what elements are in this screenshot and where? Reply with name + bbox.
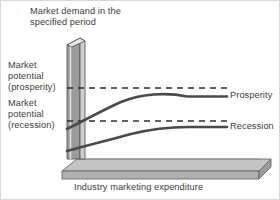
prosperity-curve	[67, 94, 227, 129]
chart-title-line-2: specified period	[30, 17, 96, 27]
y-axis-label-recession-line-1: Market	[8, 98, 37, 108]
base-slab-top-face	[62, 159, 271, 171]
value-axis-slab-side-face	[80, 38, 85, 159]
y-axis-label-recession-line-2: potential	[8, 109, 44, 119]
y-axis-label-prosperity: Marketpotential(prosperity)	[8, 60, 56, 94]
chart-title: Market demand in thespecified period	[30, 6, 121, 28]
value-axis-slab-front-face	[67, 38, 80, 159]
y-axis-label-recession: Marketpotential(recession)	[8, 98, 55, 132]
y-axis-label-recession-line-3: (recession)	[8, 120, 55, 130]
series-label-recession: Recession	[230, 121, 274, 132]
figure-canvas: Market demand in thespecified period Mar…	[0, 0, 280, 200]
y-axis-label-prosperity-line-2: potential	[8, 71, 44, 81]
series-label-prosperity: Prosperity	[230, 90, 272, 101]
base-slab-front-face	[62, 171, 259, 179]
recession-curve	[67, 127, 227, 151]
chart-title-line-1: Market demand in the	[30, 6, 121, 16]
y-axis-label-prosperity-line-3: (prosperity)	[8, 82, 56, 92]
y-axis-label-prosperity-line-1: Market	[8, 60, 37, 70]
x-axis-label: Industry marketing expenditure	[74, 182, 203, 193]
